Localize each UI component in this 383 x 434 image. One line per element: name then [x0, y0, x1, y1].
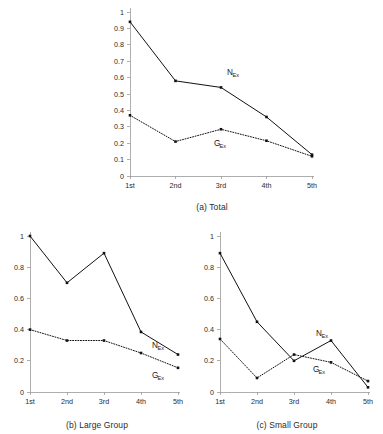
x-axis-tick-label: 2nd [170, 181, 182, 190]
y-axis-tick-label: 0.8 [204, 263, 214, 272]
data-point-marker [367, 380, 370, 383]
data-point-marker [265, 116, 268, 119]
data-point-marker [129, 114, 132, 117]
series-annotation-subscript: Ex [158, 375, 165, 381]
x-axis-tick-label: 4th [136, 397, 146, 406]
series-annotation-n-ex: NEx [227, 68, 239, 78]
data-point-marker [367, 386, 370, 389]
chart-caption-total: (a) Total [96, 202, 328, 212]
x-axis-tick-label: 5th [307, 181, 317, 190]
data-point-marker [29, 235, 32, 238]
x-axis-tick-label: 1st [25, 397, 35, 406]
x-axis-tick-label: 5th [173, 397, 183, 406]
y-axis-tick-label: 1 [20, 232, 24, 241]
series-annotation-g-ex: GEx [152, 371, 164, 381]
data-point-marker [103, 252, 106, 255]
data-point-marker [177, 367, 180, 370]
data-point-marker [256, 377, 259, 380]
y-axis-tick-label: 0.6 [14, 294, 24, 303]
series-line-g-ex [130, 115, 312, 156]
data-point-marker [174, 80, 177, 83]
data-point-marker [311, 155, 314, 158]
data-point-marker [256, 321, 259, 324]
series-annotation-n-ex: NEx [316, 329, 328, 339]
y-axis-tick-label: 0.8 [14, 263, 24, 272]
y-axis-tick-label: 1 [120, 8, 124, 17]
series-annotation-subscript: Ex [233, 72, 240, 78]
y-axis-tick-label: 0.8 [114, 40, 124, 49]
y-axis-tick-label: 0.4 [114, 106, 124, 115]
data-point-marker [66, 282, 69, 285]
chart-plot-total: 00.10.20.30.40.50.60.70.80.911st2nd3rd4t… [96, 2, 328, 198]
y-axis-tick-label: 0.9 [114, 24, 124, 33]
y-axis-tick-label: 0.1 [114, 155, 124, 164]
data-point-marker [265, 139, 268, 142]
y-axis-tick-label: 0.2 [114, 139, 124, 148]
chart-caption-large-group: (b) Large Group [2, 420, 192, 430]
data-point-marker [330, 339, 333, 342]
y-axis-tick-label: 0.5 [114, 90, 124, 99]
chart-caption-small-group: (c) Small Group [192, 420, 382, 430]
data-point-marker [174, 140, 177, 143]
data-point-marker [293, 353, 296, 356]
data-point-marker [219, 252, 222, 255]
chart-plot-large-group: 00.20.40.60.811st2nd3rd4th5thNExGEx [2, 226, 192, 414]
y-axis-tick-label: 0.3 [114, 122, 124, 131]
y-axis-tick-label: 0 [20, 388, 24, 397]
x-axis-tick-label: 2nd [61, 397, 73, 406]
series-annotation-subscript: Ex [158, 345, 165, 351]
x-axis-tick-label: 3rd [216, 181, 226, 190]
y-axis-tick-label: 0.2 [14, 356, 24, 365]
y-axis-tick-label: 0 [120, 172, 124, 181]
data-point-marker [220, 128, 223, 131]
y-axis-tick-label: 0.2 [204, 356, 214, 365]
y-axis-tick-label: 0.6 [114, 73, 124, 82]
data-point-marker [29, 328, 32, 331]
data-point-marker [140, 331, 143, 334]
y-axis-tick-label: 0.4 [14, 325, 24, 334]
data-point-marker [140, 352, 143, 355]
data-point-marker [103, 339, 106, 342]
y-axis-tick-label: 0.6 [204, 294, 214, 303]
data-point-marker [66, 339, 69, 342]
y-axis-tick-label: 0.4 [204, 325, 214, 334]
data-point-marker [129, 21, 132, 24]
chart-panel-small-group: 00.20.40.60.811st2nd3rd4th5thNExGEx (c) … [192, 226, 382, 432]
data-point-marker [177, 353, 180, 356]
x-axis-tick-label: 4th [262, 181, 272, 190]
x-axis-tick-label: 3rd [99, 397, 109, 406]
series-annotation-subscript: Ex [322, 333, 329, 339]
figure-root: 00.10.20.30.40.50.60.70.80.911st2nd3rd4t… [0, 0, 383, 434]
y-axis-tick-label: 1 [210, 232, 214, 241]
y-axis-tick-label: 0 [210, 388, 214, 397]
chart-plot-small-group: 00.20.40.60.811st2nd3rd4th5thNExGEx [192, 226, 382, 414]
data-point-marker [293, 360, 296, 363]
x-axis-tick-label: 5th [363, 397, 373, 406]
x-axis-tick-label: 1st [125, 181, 135, 190]
data-point-marker [220, 86, 223, 89]
y-axis-tick-label: 0.7 [114, 57, 124, 66]
x-axis-tick-label: 1st [215, 397, 225, 406]
data-point-marker [219, 338, 222, 341]
x-axis-tick-label: 3rd [289, 397, 299, 406]
x-axis-tick-label: 2nd [251, 397, 263, 406]
chart-panel-total: 00.10.20.30.40.50.60.70.80.911st2nd3rd4t… [96, 2, 328, 214]
series-annotation-subscript: Ex [220, 143, 227, 149]
data-point-marker [330, 361, 333, 364]
series-line-n-ex [220, 253, 368, 387]
series-annotation-subscript: Ex [319, 369, 326, 375]
chart-panel-large-group: 00.20.40.60.811st2nd3rd4th5thNExGEx (b) … [2, 226, 192, 432]
series-annotation-g-ex: GEx [214, 139, 226, 149]
x-axis-tick-label: 4th [326, 397, 336, 406]
series-annotation-g-ex: GEx [313, 365, 325, 375]
